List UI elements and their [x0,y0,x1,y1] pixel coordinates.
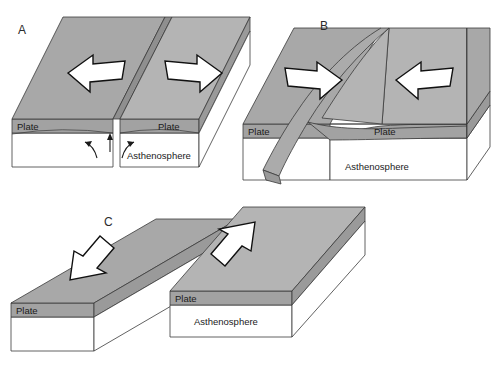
panel-b-plate-label-left: Plate [248,126,270,137]
panel-c-label: C [104,215,113,229]
plate-boundaries-figure: Plate Plate Asthenosphere A [0,0,504,371]
panel-a-asthenosphere-front-left [12,133,113,167]
panel-c-asthenosphere-front-left [11,317,94,351]
diagram-canvas: Plate Plate Asthenosphere A [0,0,504,371]
panel-b-asthenosphere-front-right [330,138,467,180]
panel-a-plate-label-right: Plate [158,121,180,132]
panel-b-asthenosphere-label: Asthenosphere [345,161,409,172]
panel-b-plate-label-right: Plate [374,126,396,137]
panel-a-asthenosphere-label: Asthenosphere [127,150,191,161]
panel-a-divergent: Plate Plate Asthenosphere A [12,17,250,167]
panel-c-transform: Plate Plate Asthenosphere C [11,207,365,351]
panel-c-asthenosphere-label: Asthenosphere [194,316,258,327]
panel-a-plate-label-left: Plate [17,121,39,132]
panel-b-convergent: Plate Plate Asthenosphere B [243,19,490,184]
panel-c-plate-label-right: Plate [175,293,197,304]
panel-c-plate-label-left: Plate [16,305,38,316]
panel-b-label: B [320,19,328,33]
panel-a-label: A [18,23,26,37]
